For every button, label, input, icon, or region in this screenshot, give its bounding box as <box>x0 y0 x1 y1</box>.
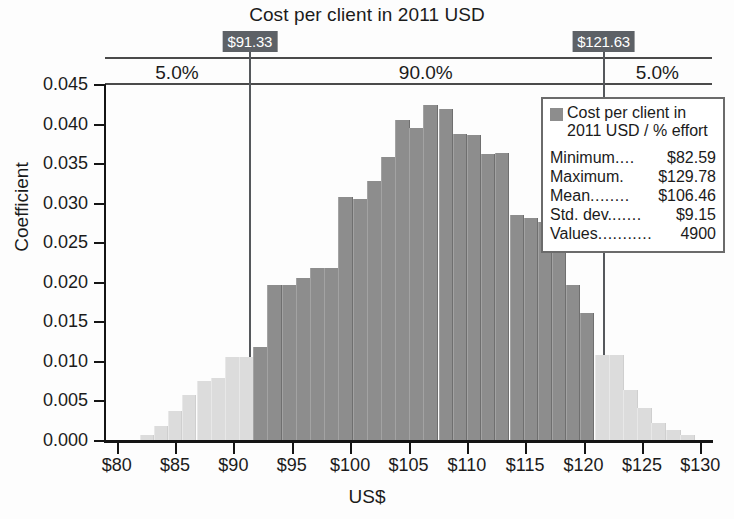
y-tick-mark <box>94 242 105 244</box>
x-axis-label: US$ <box>0 486 734 508</box>
y-tick-label: 0.025 <box>0 232 88 253</box>
legend-stat-row: Std. dev. ......$9.15 <box>550 206 716 225</box>
legend-stat-value: $106.46 <box>658 187 716 206</box>
histogram-bar <box>510 215 525 440</box>
x-tick-mark <box>350 443 352 454</box>
histogram-bar <box>423 105 438 440</box>
x-tick-mark <box>467 443 469 454</box>
histogram-bar <box>395 120 410 440</box>
histogram-bar <box>680 435 695 440</box>
histogram-bar <box>367 181 382 440</box>
legend-stat-dots: ........ <box>590 187 658 206</box>
y-tick-mark <box>94 124 105 126</box>
legend: Cost per client in 2011 USD / % effort M… <box>541 97 725 253</box>
histogram-bar <box>168 411 183 440</box>
x-tick-mark <box>409 443 411 454</box>
histogram-bar <box>211 378 226 440</box>
x-tick-mark <box>642 443 644 454</box>
legend-stat-row: Mean........$106.46 <box>550 187 716 206</box>
histogram-bar <box>637 408 652 440</box>
histogram-bar <box>580 313 595 440</box>
percentile-value-chip[interactable]: $91.33 <box>223 31 278 52</box>
percentile-band: 5.0%90.0%5.0% <box>105 57 712 85</box>
histogram-bar <box>595 355 610 440</box>
legend-stat-dots: ........... <box>598 225 681 244</box>
histogram-bar <box>453 134 468 440</box>
histogram-bar <box>409 128 424 440</box>
histogram-bar <box>481 154 496 440</box>
legend-title-line2: 2011 USD / % effort <box>567 122 708 140</box>
x-tick-mark <box>117 443 119 454</box>
histogram-bar <box>154 426 169 440</box>
histogram-bar <box>310 268 325 440</box>
y-tick-label: 0.040 <box>0 113 88 134</box>
percentile-band-label: 90.0% <box>249 59 603 85</box>
histogram-bar <box>296 278 311 440</box>
y-tick-mark <box>94 203 105 205</box>
histogram-bar <box>253 347 268 440</box>
legend-stat-row: Maximum.$129.78 <box>550 168 716 187</box>
legend-header: Cost per client in 2011 USD / % effort <box>550 104 716 140</box>
histogram-bar <box>495 153 510 440</box>
legend-stat-value: $82.59 <box>667 149 716 168</box>
legend-stat-name: Std. dev. <box>550 206 612 225</box>
legend-stat-row: Minimum....$82.59 <box>550 149 716 168</box>
percentile-band-label: 5.0% <box>603 59 712 85</box>
y-tick-mark <box>94 321 105 323</box>
legend-stat-name: Maximum <box>550 168 619 187</box>
histogram-bar <box>282 285 297 440</box>
legend-stat-value: $129.78 <box>658 168 716 187</box>
histogram-bar <box>197 381 212 440</box>
y-tick-mark <box>94 361 105 363</box>
x-tick-mark <box>584 443 586 454</box>
x-tick-mark <box>525 443 527 454</box>
y-tick-mark <box>94 282 105 284</box>
x-tick-mark <box>292 443 294 454</box>
histogram-bar <box>538 222 553 440</box>
legend-stat-dots: . <box>619 168 658 187</box>
histogram-bar <box>239 357 254 440</box>
percentile-value-chip[interactable]: $121.63 <box>572 31 635 52</box>
legend-stat-name: Mean <box>550 187 590 206</box>
histogram-bar <box>524 218 539 440</box>
legend-stat-row: Values ...........4900 <box>550 225 716 244</box>
y-tick-label: 0.000 <box>0 430 88 451</box>
histogram-bar <box>609 355 624 440</box>
y-tick-mark <box>94 400 105 402</box>
histogram-bar <box>623 390 638 440</box>
histogram-bar <box>651 423 666 440</box>
histogram-bar <box>353 199 368 440</box>
histogram-bar <box>140 435 155 440</box>
percentile-band-label: 5.0% <box>105 59 249 85</box>
x-tick-mark <box>233 443 235 454</box>
y-tick-label: 0.005 <box>0 390 88 411</box>
page-title: Cost per client in 2011 USD <box>0 4 734 26</box>
legend-title-line1: Cost per client in <box>567 104 708 122</box>
y-tick-label: 0.010 <box>0 350 88 371</box>
y-tick-label: 0.035 <box>0 153 88 174</box>
histogram-bar <box>439 109 454 440</box>
histogram-bar <box>381 157 396 440</box>
y-tick-label: 0.030 <box>0 192 88 213</box>
x-tick-mark <box>700 443 702 454</box>
y-tick-mark <box>94 440 105 442</box>
y-tick-label: 0.045 <box>0 74 88 95</box>
histogram-bar <box>467 135 482 440</box>
histogram-bar <box>338 197 353 440</box>
x-tick-label: $130 <box>665 455 734 476</box>
legend-stat-dots: .... <box>615 149 667 168</box>
histogram-figure: Cost per client in 2011 USD 5.0%90.0%5.0… <box>0 0 734 519</box>
histogram-bar <box>182 395 197 440</box>
legend-title: Cost per client in 2011 USD / % effort <box>567 104 708 140</box>
histogram-bar <box>225 357 240 440</box>
legend-stat-value: 4900 <box>680 225 716 244</box>
legend-statistics: Minimum....$82.59Maximum.$129.78Mean....… <box>550 149 716 243</box>
legend-stat-dots: ...... <box>612 206 676 225</box>
histogram-bar <box>566 285 581 440</box>
y-tick-mark <box>94 84 105 86</box>
y-tick-mark <box>94 163 105 165</box>
y-tick-label: 0.015 <box>0 311 88 332</box>
histogram-bar <box>324 268 339 440</box>
x-tick-mark <box>175 443 177 454</box>
legend-stat-name: Values <box>550 225 598 244</box>
